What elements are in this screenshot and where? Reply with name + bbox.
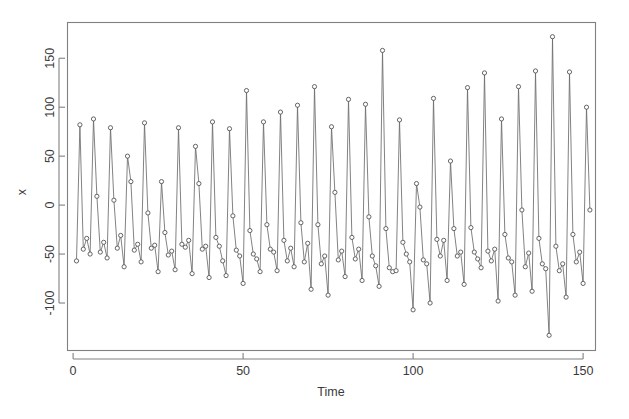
- data-point: [132, 248, 136, 252]
- time-series-plot: -100-50050100150 050100150 Time x: [0, 0, 629, 419]
- data-point: [163, 230, 167, 234]
- data-point: [74, 259, 78, 263]
- data-point: [360, 278, 364, 282]
- data-point: [540, 262, 544, 266]
- data-point: [265, 223, 269, 227]
- data-point: [312, 85, 316, 89]
- data-point: [326, 293, 330, 297]
- data-point: [489, 259, 493, 263]
- data-point: [129, 180, 133, 184]
- data-point: [499, 117, 503, 121]
- data-point: [108, 126, 112, 130]
- data-point: [367, 215, 371, 219]
- data-point: [302, 260, 306, 264]
- data-point: [476, 257, 480, 261]
- data-point: [493, 247, 497, 251]
- data-point: [258, 270, 262, 274]
- data-point: [571, 232, 575, 236]
- x-tick-label: 100: [403, 364, 424, 378]
- data-series: [74, 35, 592, 338]
- data-point: [316, 223, 320, 227]
- data-point: [530, 289, 534, 293]
- data-point: [357, 247, 361, 251]
- data-point: [309, 287, 313, 291]
- data-point: [482, 71, 486, 75]
- data-point: [350, 235, 354, 239]
- data-point: [340, 249, 344, 253]
- data-point: [261, 120, 265, 124]
- data-point: [139, 260, 143, 264]
- data-point: [146, 211, 150, 215]
- data-point: [319, 262, 323, 266]
- data-point: [214, 235, 218, 239]
- data-point: [105, 256, 109, 260]
- data-point: [479, 266, 483, 270]
- data-point: [353, 257, 357, 261]
- data-point: [537, 236, 541, 240]
- data-point: [428, 301, 432, 305]
- data-point: [299, 221, 303, 225]
- data-point: [210, 120, 214, 124]
- data-point: [275, 269, 279, 273]
- data-point: [248, 228, 252, 232]
- data-point: [418, 205, 422, 209]
- data-point: [520, 208, 524, 212]
- x-axis: 050100150: [70, 353, 594, 378]
- data-point: [88, 252, 92, 256]
- x-tick-label: 50: [236, 364, 250, 378]
- data-point: [438, 254, 442, 258]
- data-point: [435, 237, 439, 241]
- data-point: [176, 126, 180, 130]
- data-point: [574, 260, 578, 264]
- data-point: [408, 260, 412, 264]
- data-point: [578, 250, 582, 254]
- data-point: [170, 249, 174, 253]
- data-point: [142, 121, 146, 125]
- data-point: [234, 248, 238, 252]
- data-point: [238, 254, 242, 258]
- data-point: [411, 308, 415, 312]
- data-point: [387, 266, 391, 270]
- y-tick-label: -50: [43, 245, 57, 263]
- data-point: [486, 249, 490, 253]
- data-point: [472, 250, 476, 254]
- data-point: [380, 48, 384, 52]
- data-point: [85, 236, 89, 240]
- data-point: [346, 97, 350, 101]
- data-point: [550, 35, 554, 39]
- data-point: [122, 265, 126, 269]
- data-point: [244, 88, 248, 92]
- y-tick-label: 150: [43, 48, 57, 69]
- data-point: [506, 256, 510, 260]
- data-point: [156, 270, 160, 274]
- data-point: [397, 118, 401, 122]
- data-point: [231, 214, 235, 218]
- data-point: [295, 103, 299, 107]
- data-point: [421, 258, 425, 262]
- data-point: [564, 295, 568, 299]
- data-point: [241, 281, 245, 285]
- y-axis: -100-50050100150: [43, 48, 65, 316]
- data-point: [173, 268, 177, 272]
- data-point: [567, 70, 571, 74]
- data-point: [119, 233, 123, 237]
- data-point: [224, 273, 228, 277]
- data-point: [193, 144, 197, 148]
- data-point: [204, 244, 208, 248]
- y-tick-label: -100: [43, 290, 57, 315]
- data-point: [533, 69, 537, 73]
- data-point: [425, 262, 429, 266]
- chart-figure: -100-50050100150 050100150 Time x: [0, 0, 629, 419]
- data-point: [588, 208, 592, 212]
- x-axis-title: Time: [317, 385, 344, 399]
- x-tick-label: 0: [70, 364, 77, 378]
- data-point: [496, 299, 500, 303]
- data-point: [217, 244, 221, 248]
- y-tick-label: 0: [43, 202, 57, 209]
- data-point: [516, 85, 520, 89]
- data-point: [183, 245, 187, 249]
- data-point: [329, 125, 333, 129]
- data-point: [377, 284, 381, 288]
- data-point: [272, 250, 276, 254]
- data-point: [374, 264, 378, 268]
